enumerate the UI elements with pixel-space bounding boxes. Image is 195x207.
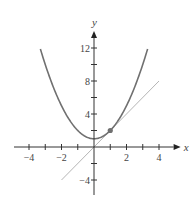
x-tick-label: 4 [157, 152, 162, 163]
y-tick-label: 4 [85, 109, 90, 120]
y-tick-label: 12 [80, 43, 90, 54]
x-axis-arrow-icon [174, 144, 181, 150]
y-tick-label: 8 [85, 76, 90, 87]
x-tick-label: −4 [24, 152, 35, 163]
x-tick-label: 2 [124, 152, 129, 163]
x-axis-label: x [183, 141, 189, 153]
y-tick-label: −4 [79, 175, 90, 186]
tangency-point [108, 128, 113, 133]
chart: −4−224−44812xy [0, 0, 195, 207]
y-axis-arrow-icon [91, 31, 97, 38]
x-tick-label: −2 [56, 152, 67, 163]
y-axis-label: y [91, 16, 97, 28]
